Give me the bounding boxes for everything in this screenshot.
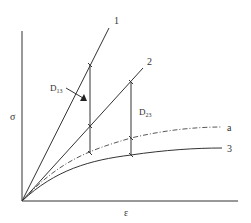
d13-label: D13 (50, 83, 63, 94)
curve-a-label: a (227, 122, 232, 133)
curve-3-line (22, 148, 222, 201)
d23-label: D23 (139, 107, 152, 118)
curve-2-label: 2 (147, 56, 152, 67)
stress-strain-diagram: 1 2 a 3 D13 D23 σ ε (0, 0, 251, 223)
d23-label-sub: 23 (146, 112, 152, 118)
curve-1-line (22, 28, 109, 201)
curve-1-label: 1 (114, 15, 119, 26)
curve-a-dashdot (22, 127, 222, 201)
d13-arrow-head-icon (80, 94, 87, 101)
y-axis-label: σ (10, 111, 16, 122)
d13-label-sub: 13 (57, 88, 63, 94)
curve-3-label: 3 (227, 143, 232, 154)
curve-2-line (22, 68, 143, 201)
x-axis-label: ε (124, 207, 128, 218)
